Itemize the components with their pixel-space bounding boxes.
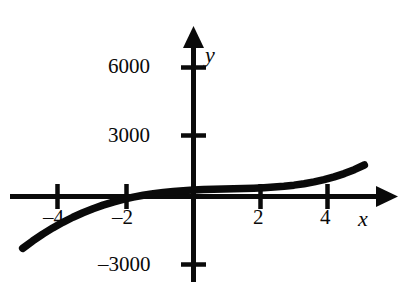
x-axis-label: x [358,208,368,230]
y-tick-label-6000: 6000 [108,56,150,77]
x-tick-label-neg4: –4 [43,207,64,228]
y-axis-arrowhead [183,26,204,48]
x-axis-arrowhead [376,186,398,207]
plot-canvas [0,0,405,289]
y-tick-label-neg3000: –3000 [98,254,151,275]
x-tick-label-4: 4 [320,207,331,228]
graph-figure: 6000 3000 –3000 –4 –2 2 4 x y [0,0,405,289]
x-tick-label-neg2: –2 [112,207,133,228]
y-tick-label-3000: 3000 [108,125,150,146]
y-axis-label: y [205,44,215,66]
x-tick-label-2: 2 [253,207,264,228]
